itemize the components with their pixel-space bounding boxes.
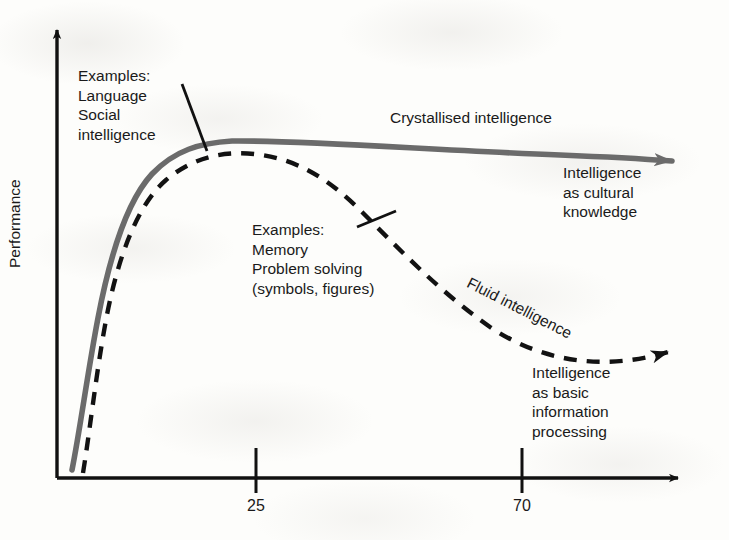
intelligence-performance-figure: Performance Examples: Language Social in… <box>0 0 729 540</box>
y-axis-title: Performance <box>6 128 24 268</box>
crystallised-description-annotation: Intelligence as cultural knowledge <box>563 163 641 222</box>
crystallised-examples-annotation: Examples: Language Social intelligence <box>78 66 156 144</box>
x-tick-label-25: 25 <box>236 497 276 515</box>
crystallised-series-label: Crystallised intelligence <box>390 108 552 128</box>
fluid-examples-annotation: Examples: Memory Problem solving (symbol… <box>252 220 374 298</box>
crystallised-examples-leader-line <box>182 84 207 151</box>
x-tick-label-70: 70 <box>502 497 542 515</box>
fluid-description-annotation: Intelligence as basic information proces… <box>532 363 610 441</box>
